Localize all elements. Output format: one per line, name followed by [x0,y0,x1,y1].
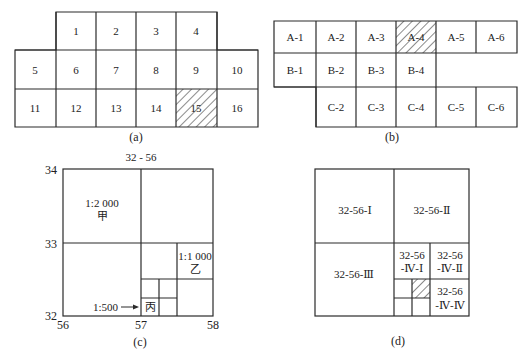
x-tick-58: 58 [207,318,219,332]
quadrant-iv-iv-label-1: 32-56 [437,285,463,297]
caption-d: (d) [391,334,405,348]
cell-5: 5 [32,64,38,76]
cell-2: 2 [113,25,119,37]
cell-11: 11 [30,102,41,114]
cell-b-4: B-4 [408,64,425,76]
sheet-bing-label: 丙 [145,301,156,313]
y-tick-34: 34 [45,163,57,177]
cell-a-1: A-1 [286,31,303,43]
quadrant-i-label: 32-56-Ⅰ [338,204,372,216]
scale-2000-label: 1:2 000 [85,197,119,209]
quadrant-iv-iv-label-2: -Ⅳ-Ⅳ [435,299,465,311]
cell-b-2: B-2 [328,64,345,76]
sheet-label: 32 - 56 [125,151,157,163]
cell-3: 3 [153,25,159,37]
sheet-yi-label: 乙 [190,263,201,275]
cell-14: 14 [151,102,163,114]
cell-13: 13 [111,102,123,114]
panel-a: 1 2 3 4 5 6 7 8 9 10 11 12 13 14 15 16 (… [15,12,258,144]
quadrant-iii-label: 32-56-Ⅲ [334,268,374,280]
cell-a-5: A-5 [447,31,465,43]
caption-c: (c) [133,335,146,349]
cell-c-6: C-6 [488,101,505,113]
arrow-icon [121,305,139,310]
cell-8: 8 [153,64,159,76]
sheet-jia-label: 甲 [97,210,108,222]
cell-a-2: A-2 [327,31,344,43]
cell-a-3: A-3 [367,31,385,43]
cell-15: 15 [191,102,203,114]
quadrant-ii-label: 32-56-Ⅱ [414,204,451,216]
cell-c-3: C-3 [368,101,385,113]
cell-12: 12 [71,102,82,114]
hatched-cell-iv-iii-ii [412,279,430,298]
y-tick-32: 32 [45,309,57,323]
y-tick-33: 33 [45,237,57,251]
cell-c-5: C-5 [448,101,465,113]
cell-10: 10 [232,64,244,76]
quadrant-iv-i-label-2: -Ⅳ-Ⅰ [401,262,424,274]
caption-a: (a) [129,130,142,144]
quadrant-iv-i-label-1: 32-56 [399,249,425,261]
map-sheet-numbering-figure: 1 2 3 4 5 6 7 8 9 10 11 12 13 14 15 16 (… [0,0,526,358]
cell-9: 9 [193,64,199,76]
cell-b-1: B-1 [287,64,304,76]
scale-1000-label: 1:1 000 [178,250,212,262]
quadrant-iv-ii-label-2: -Ⅳ-Ⅱ [437,262,463,274]
cell-a-6: A-6 [487,31,505,43]
panel-c: 32 - 56 34 33 32 56 57 58 1:2 000 甲 1:1 … [45,151,219,349]
panel-d: 32-56-Ⅰ 32-56-Ⅱ 32-56-Ⅲ 32-56 -Ⅳ-Ⅰ 32-56… [315,169,469,348]
cell-6: 6 [73,64,79,76]
cell-4: 4 [193,25,199,37]
x-tick-57: 57 [135,318,147,332]
cell-a-4: A-4 [407,31,425,43]
cell-1: 1 [73,25,79,37]
cell-16: 16 [232,102,244,114]
panel-b: A-1 A-2 A-3 A-4 A-5 A-6 B-1 B-2 B-3 B-4 … [274,21,517,144]
cell-b-3: B-3 [368,64,385,76]
cell-c-2: C-2 [328,101,345,113]
scale-500-label: 1:500 [93,301,119,313]
caption-b: (b) [385,130,399,144]
x-tick-56: 56 [57,318,69,332]
cell-7: 7 [113,64,119,76]
cell-c-4: C-4 [408,101,425,113]
quadrant-iv-ii-label-1: 32-56 [437,249,463,261]
